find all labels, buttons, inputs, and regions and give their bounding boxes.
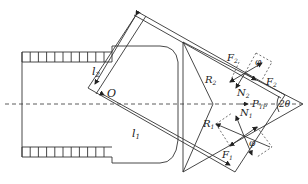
label-F2-right: F2 bbox=[265, 76, 277, 88]
label-N2: N2 bbox=[236, 87, 250, 99]
label-R1: R1 bbox=[202, 118, 214, 130]
label-phi-top: φ bbox=[255, 57, 262, 67]
dim-l1 bbox=[104, 95, 230, 165]
label-l2: l2 bbox=[92, 65, 101, 79]
label-F1: F1 bbox=[221, 149, 233, 161]
label-origin: O bbox=[107, 87, 116, 100]
label-F2-top: F2 bbox=[226, 52, 238, 64]
tube-body bbox=[22, 46, 178, 163]
dim-l2 bbox=[95, 15, 136, 84]
label-R2: R2 bbox=[204, 74, 217, 86]
label-l1: l1 bbox=[132, 127, 140, 141]
label-2theta: 2θ bbox=[278, 99, 291, 109]
label-phi-bottom: φ bbox=[249, 138, 256, 148]
label-N1: N1 bbox=[239, 107, 253, 119]
label-P-TP: PTP bbox=[251, 98, 268, 110]
insert-rectangle bbox=[88, 12, 285, 172]
force-diagram: l2 O l1 F2 φ F2 R2 N2 PTP 2θ R1 N1 F1 φ bbox=[0, 0, 308, 184]
